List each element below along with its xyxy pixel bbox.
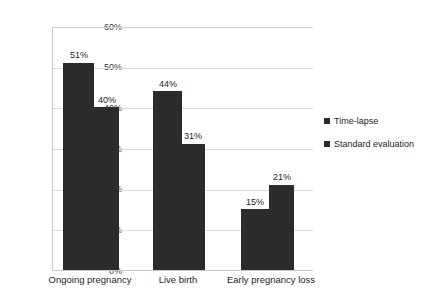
legend-label: Time-lapse <box>334 116 378 126</box>
legend-item-standard-evaluation[interactable]: Standard evaluation <box>324 139 436 149</box>
x-axis: Ongoing pregnancy Live birth Early pregn… <box>52 274 313 294</box>
bar-value-label: 31% <box>175 132 211 141</box>
bar-time-lapse-live-birth <box>153 91 182 270</box>
bar-value-label: 15% <box>237 198 273 207</box>
legend-swatch-icon <box>324 118 330 124</box>
legend-label: Standard evaluation <box>334 139 414 149</box>
legend-swatch-icon <box>324 141 330 147</box>
bar-value-label: 40% <box>89 96 125 105</box>
bar-value-label: 51% <box>61 51 97 60</box>
bar-value-label: 44% <box>150 80 186 89</box>
bar-standard-evaluation-live-birth <box>182 144 205 270</box>
bar-value-label: 21% <box>264 173 300 182</box>
plot-area: 51% 40% 44% 31% 15% 21% <box>52 27 313 271</box>
x-axis-label-live-birth: Live birth <box>134 274 222 285</box>
bars-layer: 51% 40% 44% 31% 15% 21% <box>53 27 313 270</box>
x-axis-label-early-pregnancy-loss: Early pregnancy loss <box>215 274 327 285</box>
bar-standard-evaluation-ongoing-pregnancy <box>94 107 119 270</box>
x-axis-label-ongoing-pregnancy: Ongoing pregnancy <box>44 274 136 285</box>
bar-chart: 60% 50% 40% 30% 20% 10% 0% 51% 40% <box>0 0 438 301</box>
bar-time-lapse-ongoing-pregnancy <box>63 63 94 270</box>
bar-time-lapse-early-pregnancy-loss <box>241 209 269 270</box>
legend-item-time-lapse[interactable]: Time-lapse <box>324 116 436 126</box>
chart-legend: Time-lapse Standard evaluation <box>324 116 436 162</box>
